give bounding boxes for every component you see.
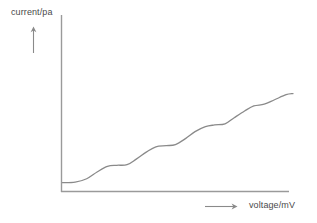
chart-figure: current/pa voltage/mV bbox=[0, 0, 317, 223]
x-axis-direction-arrow bbox=[205, 204, 238, 210]
plot-area bbox=[0, 0, 317, 223]
y-axis-direction-arrow bbox=[31, 27, 37, 54]
current-voltage-curve bbox=[63, 94, 294, 183]
